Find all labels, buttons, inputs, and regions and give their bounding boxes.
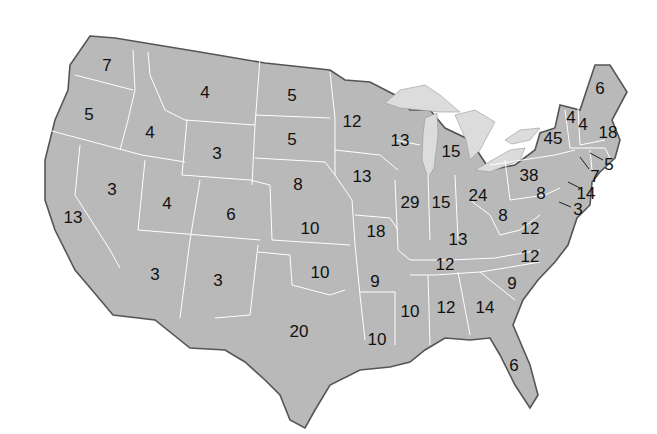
state-label-IL: 29 [401, 194, 420, 211]
state-label-NJ: 14 [577, 185, 596, 202]
state-label-MT: 4 [200, 84, 209, 101]
state-label-CA: 13 [64, 209, 83, 226]
state-label-NV: 3 [107, 181, 116, 198]
state-label-MA: 18 [599, 124, 618, 141]
state-label-RI: 5 [604, 156, 613, 173]
state-label-MD: 8 [536, 185, 545, 202]
state-label-LA: 10 [368, 331, 387, 348]
state-label-UT: 4 [162, 195, 171, 212]
state-label-VA: 12 [521, 220, 540, 237]
state-label-IN: 15 [432, 194, 451, 211]
state-label-ME: 6 [595, 80, 604, 97]
us-map [0, 0, 657, 434]
state-label-NY: 45 [544, 130, 563, 147]
state-label-IA: 13 [353, 168, 372, 185]
state-label-CO: 6 [226, 206, 235, 223]
state-label-FL: 6 [509, 357, 518, 374]
state-label-ID: 4 [145, 124, 154, 141]
state-label-MN: 12 [343, 113, 362, 130]
state-label-WY: 3 [212, 145, 221, 162]
state-label-AL: 12 [437, 299, 456, 316]
state-label-NC: 12 [521, 248, 540, 265]
us-landmass [45, 36, 627, 428]
state-label-TX: 20 [290, 323, 309, 340]
state-label-MS: 10 [401, 303, 420, 320]
state-label-MI: 15 [442, 143, 461, 160]
state-label-MO: 18 [367, 223, 386, 240]
state-label-TN: 12 [436, 256, 455, 273]
state-label-SC: 9 [507, 275, 516, 292]
state-label-NM: 3 [213, 272, 222, 289]
state-label-OH: 24 [469, 187, 488, 204]
state-label-CT: 7 [590, 168, 599, 185]
state-label-WA: 7 [102, 57, 111, 74]
state-label-AR: 9 [370, 273, 379, 290]
state-label-NE: 8 [293, 176, 302, 193]
state-label-NH: 4 [578, 116, 587, 133]
state-label-PA: 38 [520, 167, 539, 184]
state-label-OK: 10 [311, 264, 330, 281]
state-label-SD: 5 [287, 131, 296, 148]
state-label-KS: 10 [301, 220, 320, 237]
state-label-GA: 14 [476, 299, 495, 316]
state-label-ND: 5 [287, 87, 296, 104]
state-label-OR: 5 [84, 106, 93, 123]
state-label-VT: 4 [566, 109, 575, 126]
state-label-WI: 13 [391, 132, 410, 149]
state-label-WV: 8 [498, 207, 507, 224]
lake-ontario [505, 128, 540, 144]
state-label-DE: 3 [573, 201, 582, 218]
state-label-AZ: 3 [150, 266, 159, 283]
state-label-KY: 13 [449, 231, 468, 248]
